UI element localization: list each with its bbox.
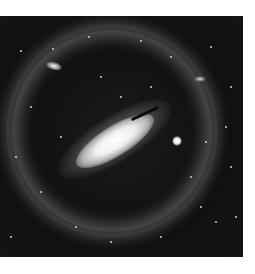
star	[120, 96, 122, 98]
star	[110, 241, 112, 243]
star	[40, 191, 42, 193]
star	[88, 36, 90, 38]
star	[10, 236, 12, 238]
galaxy-photo	[0, 16, 243, 257]
star	[15, 156, 17, 158]
star	[170, 56, 172, 58]
star	[52, 48, 54, 50]
star	[230, 86, 232, 88]
star	[205, 141, 207, 143]
star	[100, 76, 102, 78]
star	[60, 136, 62, 138]
star	[210, 46, 212, 48]
bright-star	[172, 136, 182, 146]
star	[75, 226, 77, 228]
star	[190, 176, 192, 178]
star	[20, 50, 22, 52]
halo-knot	[194, 76, 206, 82]
star	[150, 86, 152, 88]
star	[235, 216, 237, 218]
star	[230, 166, 232, 168]
star	[30, 106, 32, 108]
star	[215, 221, 217, 223]
star	[225, 126, 227, 128]
star	[160, 236, 162, 238]
star	[140, 40, 142, 42]
star	[200, 206, 202, 208]
